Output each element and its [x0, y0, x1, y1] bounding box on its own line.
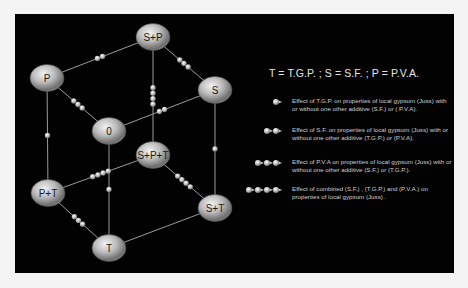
effect-marker-icon — [177, 57, 182, 62]
effect-marker-icon — [162, 107, 167, 112]
legend-text: Effect of P.V.A on properties of local g… — [292, 158, 452, 173]
legend-text: Effect of S.F. on properties of local gy… — [292, 126, 452, 141]
effect-marker-icon — [100, 170, 105, 175]
node-S+P: S+P — [136, 24, 170, 51]
node-S+T: S+T — [198, 195, 232, 222]
effect-marker-icon — [183, 181, 188, 186]
node-0: 0 — [92, 118, 126, 145]
legend-text: Effect of T.G.P. on properties of local … — [292, 97, 452, 112]
node-label: S+T — [206, 203, 225, 214]
node-P: P — [30, 65, 64, 92]
effect-marker-icon — [80, 221, 85, 226]
quad-arrow-marker-icon — [241, 186, 285, 194]
node-P+T: P+T — [31, 180, 65, 207]
effect-marker-icon — [150, 102, 155, 107]
node-S+P+T: S+P+T — [136, 142, 170, 169]
node-label: S+P — [143, 32, 163, 43]
node-label: T — [106, 243, 112, 254]
effect-marker-icon — [95, 56, 100, 61]
node-label: S — [212, 85, 219, 96]
effect-marker-icon — [72, 214, 77, 219]
node-label: S+P+T — [137, 150, 168, 161]
effect-marker-icon — [150, 96, 155, 101]
legend-text: Effect of combined (S.F.) , (T.G.P.) and… — [292, 185, 452, 200]
effect-marker-icon — [76, 218, 81, 223]
effect-marker-icon — [100, 54, 105, 59]
effect-marker-icon — [150, 85, 155, 90]
node-label: P — [44, 73, 51, 84]
edge-markers — [45, 54, 218, 227]
effect-marker-icon — [75, 102, 80, 107]
effect-marker-icon — [179, 177, 184, 182]
edge-T-S+T — [109, 208, 215, 248]
effect-marker-icon — [90, 174, 95, 179]
effect-marker-icon — [71, 98, 76, 103]
effect-marker-icon — [106, 168, 111, 173]
effect-marker-icon — [45, 133, 50, 138]
effect-marker-icon — [79, 105, 84, 110]
effect-marker-icon — [157, 109, 162, 114]
diagram-nodes: S+PPS0S+P+TP+TS+TT — [30, 24, 232, 262]
triple-arrow-marker-icon — [241, 159, 285, 167]
effect-marker-icon — [106, 187, 111, 192]
double-arrow-marker-icon — [241, 127, 285, 135]
effect-marker-icon — [181, 61, 186, 66]
effect-marker-icon — [188, 184, 193, 189]
effect-marker-icon — [175, 173, 180, 178]
key-title: T = T.G.P. ; S = S.F. ; P = P.V.A. — [269, 67, 419, 79]
effect-marker-icon — [185, 64, 190, 69]
single-arrow-marker-icon — [241, 98, 285, 106]
effect-marker-icon — [95, 172, 100, 177]
node-S: S — [198, 77, 232, 104]
node-label: 0 — [106, 126, 112, 137]
edge-0-S — [109, 90, 215, 131]
node-T: T — [92, 235, 126, 262]
effect-marker-icon — [150, 91, 155, 96]
edge-P-S+P — [47, 37, 153, 78]
effect-marker-icon — [212, 146, 217, 151]
cube-diagram: S+PPS0S+P+TP+TS+TT — [15, 14, 454, 273]
diagram-panel: S+PPS0S+P+TP+TS+TT T = T.G.P. ; S = S.F.… — [15, 14, 454, 273]
node-label: P+T — [39, 188, 58, 199]
